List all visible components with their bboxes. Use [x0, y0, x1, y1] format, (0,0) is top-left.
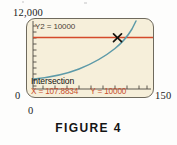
y-axis-max-label: 12,000 — [13, 7, 43, 18]
y-coordinate-readout: Y = 10000 — [90, 87, 126, 96]
coordinate-readout: X = 107.8834Y = 10000 — [31, 87, 126, 96]
x-axis-min-label: 0 — [28, 105, 33, 116]
figure-caption: FIGURE 4 — [0, 121, 177, 135]
y-axis-min-label: 0 — [15, 90, 20, 101]
x-coordinate-readout: X = 107.8834 — [31, 87, 78, 96]
figure-container: 12,000 0 0 150 — [0, 0, 177, 145]
graphing-calculator-screen: Y2 = 10000 Intersection X = 107.8834Y = … — [26, 18, 154, 98]
intersection-label: Intersection — [31, 77, 74, 86]
x-axis-max-label: 150 — [155, 90, 171, 101]
function-readout: Y2 = 10000 — [35, 22, 75, 31]
scan-artifact — [84, 2, 87, 4]
scan-artifact — [22, 1, 24, 3]
